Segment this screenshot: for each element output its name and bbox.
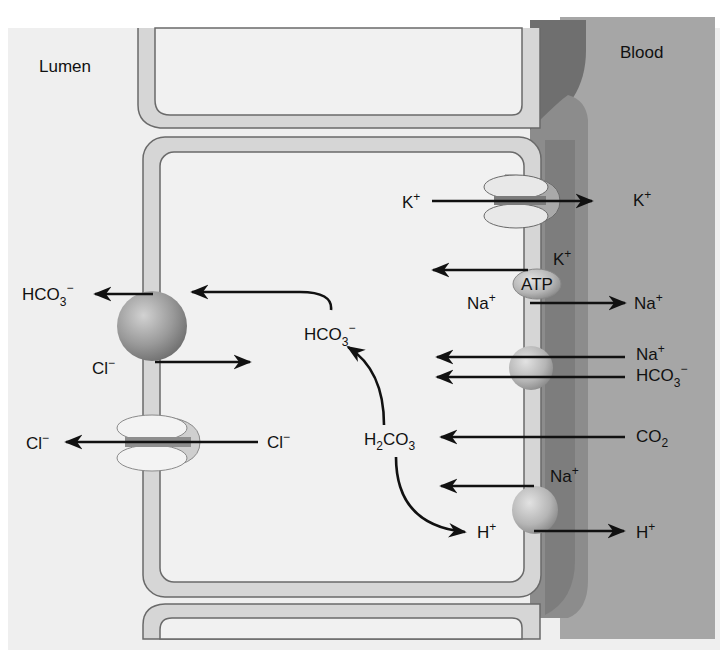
- atp-label: ATP: [521, 275, 553, 294]
- na-hco3-cotransporter: [509, 346, 553, 390]
- blood-label: Blood: [620, 43, 663, 62]
- cell-cytoplasm: [160, 152, 524, 582]
- ion-transport-diagram: ATP Lumen Blood K+ K+ K+ Na+ Na+ Na+ HCO: [0, 0, 726, 655]
- na-k-atpase-pump: ATP: [513, 269, 561, 299]
- lower-cell-interior: [160, 618, 522, 639]
- na-h-exchanger: [512, 486, 558, 534]
- upper-cell-interior: [155, 28, 522, 115]
- cl-hco3-exchanger: [117, 291, 187, 361]
- lumen-label: Lumen: [39, 57, 91, 76]
